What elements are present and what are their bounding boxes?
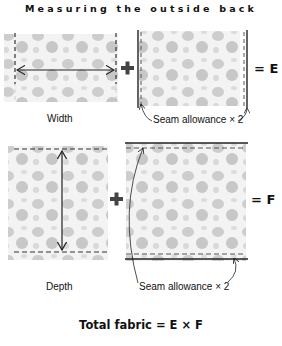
seam-width-panel <box>138 30 247 121</box>
seam-allowance-label-bottom: Seam allowance × 2 <box>139 281 229 292</box>
total-fabric-formula: Total fabric = E × F <box>0 318 282 332</box>
plus-icon <box>121 62 134 75</box>
result-f: = F <box>251 192 275 207</box>
seam-allowance-label-top: Seam allowance × 2 <box>153 114 243 125</box>
result-e: = E <box>254 61 278 76</box>
seam-depth-panel <box>125 143 248 283</box>
width-label: Width <box>47 113 73 124</box>
depth-label: Depth <box>46 281 73 292</box>
plus-icon <box>110 193 123 206</box>
depth-panel <box>8 146 108 260</box>
measurement-diagram <box>0 0 282 346</box>
width-panel <box>4 33 118 103</box>
